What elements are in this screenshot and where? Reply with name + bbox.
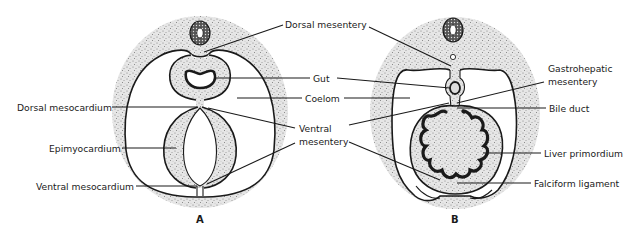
label-gut: Gut	[313, 73, 330, 84]
notochord-b	[450, 54, 455, 59]
label-ventral-mesentery-1: Ventral	[299, 123, 332, 134]
panel-b-diagram	[370, 17, 540, 209]
embryo-cross-section-figure: Dorsal mesentery Gut Coelom Dorsal mesoc…	[0, 0, 638, 237]
label-bile-duct: Bile duct	[549, 103, 590, 114]
label-coelom: Coelom	[305, 93, 340, 104]
label-gastrohepatic-2: mesentery	[548, 76, 598, 87]
label-epimyocardium: Epimyocardium	[49, 143, 121, 154]
gut-lumen-a	[186, 71, 215, 88]
label-ventral-mesocardium: Ventral mesocardium	[36, 181, 134, 192]
label-dorsal-mesocardium: Dorsal mesocardium	[17, 102, 112, 113]
label-gastrohepatic-1: Gastrohepatic	[548, 63, 612, 74]
panel-label-b: B	[451, 214, 459, 225]
label-ventral-mesentery-2: mesentery	[299, 136, 349, 147]
label-liver-primordium: Liver primordium	[544, 148, 623, 159]
label-dorsal-mesentery: Dorsal mesentery	[285, 19, 367, 30]
gut-b	[450, 82, 460, 94]
panel-label-a: A	[196, 214, 204, 225]
panel-a-diagram	[112, 16, 288, 208]
label-falciform-ligament: Falciform ligament	[534, 178, 620, 189]
